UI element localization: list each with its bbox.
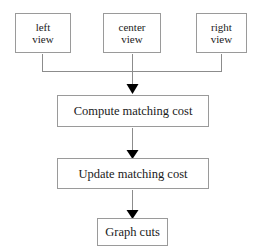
- node-graph-cuts[interactable]: Graph cuts: [97, 218, 168, 246]
- node-graph-cuts-label: Graph cuts: [105, 225, 160, 239]
- node-center-view[interactable]: center view: [103, 13, 161, 53]
- node-right-view-line2: view: [211, 33, 232, 45]
- node-left-view[interactable]: left view: [15, 13, 71, 53]
- node-update-matching-cost[interactable]: Update matching cost: [57, 158, 209, 189]
- node-compute-matching-cost[interactable]: Compute matching cost: [57, 95, 209, 127]
- node-compute-label: Compute matching cost: [74, 104, 193, 118]
- arrowhead-to-compute: [127, 84, 139, 94]
- node-left-view-line1: left: [36, 21, 51, 33]
- node-center-view-line2: view: [121, 33, 142, 45]
- node-center-view-line1: center: [119, 21, 146, 33]
- flowchart-diagram: left view center view right view Compute…: [0, 0, 264, 246]
- node-right-view-line1: right: [211, 21, 232, 33]
- node-left-view-line2: view: [32, 33, 53, 45]
- node-update-label: Update matching cost: [79, 167, 188, 181]
- node-right-view[interactable]: right view: [196, 13, 247, 53]
